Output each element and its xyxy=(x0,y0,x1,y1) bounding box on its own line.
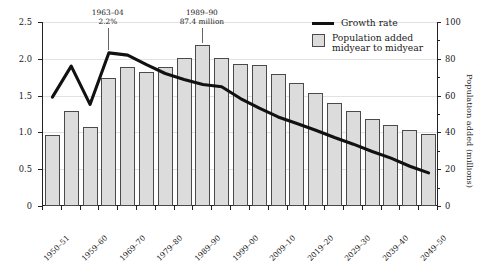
x-axis-tick-label: 1969–70 xyxy=(118,234,147,262)
y-axis-right-tick-label: 20 xyxy=(445,165,456,173)
y-axis-right-tick-label: 0 xyxy=(445,202,450,210)
x-axis-tick-label: 1959–60 xyxy=(80,234,109,262)
annotation-value: 2.2% xyxy=(58,18,158,27)
x-axis-tick xyxy=(174,206,175,210)
y-axis-right-tick-label: 40 xyxy=(445,128,456,136)
y-axis-right-tick-label: 80 xyxy=(445,55,456,63)
legend-label-population-added: Population added midyear to midyear xyxy=(332,33,423,54)
y-axis-left-tick-label: 2.5 xyxy=(0,18,32,26)
x-axis-tick xyxy=(418,206,419,210)
annotation-peak-population-added: 1989–9087.4 million xyxy=(152,9,252,26)
x-axis-tick xyxy=(362,206,363,210)
legend-label-growth-rate: Growth rate xyxy=(341,18,398,29)
x-axis-tick xyxy=(249,206,250,210)
x-axis-tick-label: 2049–50 xyxy=(419,234,448,262)
y-axis-left-tick-label: 1.0 xyxy=(0,128,32,136)
y-axis-right-tick-label: 100 xyxy=(445,18,461,26)
x-axis-tick-label: 2029–30 xyxy=(344,234,373,262)
x-axis-tick xyxy=(42,206,43,210)
y-axis-right-tick xyxy=(437,114,440,115)
y-axis-left-tick xyxy=(38,22,42,23)
x-axis-tick xyxy=(437,206,438,210)
x-axis-tick xyxy=(343,206,344,210)
y-axis-left-tick xyxy=(38,169,42,170)
x-axis-tick xyxy=(98,206,99,210)
x-axis-tick xyxy=(61,206,62,210)
y-axis-left-tick xyxy=(38,96,42,97)
x-axis-tick xyxy=(80,206,81,210)
y-axis-left-tick-label: 0 xyxy=(0,202,32,210)
x-axis-tick-label: 1950–51 xyxy=(43,234,72,262)
x-axis-tick xyxy=(117,206,118,210)
x-axis-tick xyxy=(230,206,231,210)
x-axis-tick-label: 1979–80 xyxy=(156,234,185,262)
bar-swatch-icon xyxy=(312,34,325,47)
y-axis-right-tick xyxy=(437,77,440,78)
y-axis-right-tick xyxy=(437,59,441,60)
x-axis-tick xyxy=(381,206,382,210)
legend-label-line1: Population added xyxy=(332,32,413,43)
x-axis-tick-label: 2009–10 xyxy=(269,234,298,262)
y-axis-left-tick xyxy=(38,59,42,60)
y-axis-left-tick-label: 1.5 xyxy=(0,91,32,99)
y-axis-left-tick xyxy=(38,132,42,133)
y-axis-right-tick xyxy=(437,132,441,133)
annotation-leader-line xyxy=(108,28,109,50)
x-axis-tick xyxy=(268,206,269,210)
x-axis-tick-label: 2039–40 xyxy=(381,234,410,262)
y-axis-right-tick xyxy=(437,96,441,97)
growth-rate-polyline xyxy=(52,53,428,173)
y-axis-left-tick-label: 0.5 xyxy=(0,165,32,173)
x-axis-tick xyxy=(324,206,325,210)
legend-label-line2: midyear to midyear xyxy=(332,42,423,53)
x-axis-tick xyxy=(155,206,156,210)
growth-rate-population-chart: Average annual growth rate (per cent) Po… xyxy=(0,0,485,262)
y-axis-right-title: Population added (millions) xyxy=(466,74,474,188)
y-axis-right-tick xyxy=(437,169,441,170)
x-axis-tick-label: 2019–20 xyxy=(306,234,335,262)
y-axis-left-tick-label: 2.0 xyxy=(0,55,32,63)
line-marker-icon xyxy=(312,22,334,25)
x-axis-tick xyxy=(399,206,400,210)
x-axis-tick xyxy=(211,206,212,210)
y-axis-right-tick xyxy=(437,188,440,189)
legend-item-population-added: Population added midyear to midyear xyxy=(312,33,423,54)
x-axis-tick-label: 1989–90 xyxy=(193,234,222,262)
x-axis-tick xyxy=(192,206,193,210)
annotation-peak-growth-rate: 1963–042.2% xyxy=(58,9,158,26)
y-axis-right-tick-label: 60 xyxy=(445,91,456,99)
legend-item-growth-rate: Growth rate xyxy=(312,18,423,29)
y-axis-right-tick xyxy=(437,22,441,23)
annotation-value: 87.4 million xyxy=(152,18,252,27)
y-axis-right-tick xyxy=(437,151,440,152)
y-axis-right-tick xyxy=(437,40,440,41)
x-axis-tick-label: 1999–00 xyxy=(231,234,260,262)
x-axis-tick xyxy=(305,206,306,210)
x-axis-tick xyxy=(287,206,288,210)
annotation-leader-line xyxy=(202,28,203,43)
legend: Growth rate Population added midyear to … xyxy=(312,18,423,58)
x-axis-tick xyxy=(136,206,137,210)
